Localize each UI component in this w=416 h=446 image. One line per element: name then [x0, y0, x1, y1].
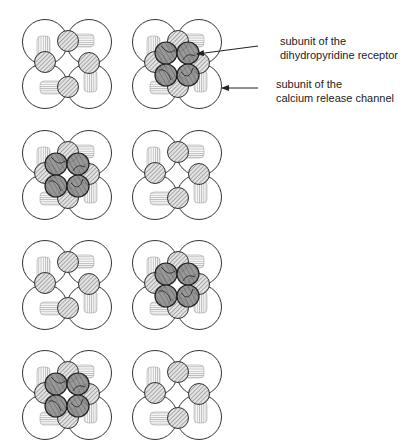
label-dhpr-line1: subunit of the: [280, 34, 398, 48]
panel-r4-c2: [133, 351, 222, 440]
panel-r3-c2: [133, 241, 222, 330]
panel-r3-c1: [23, 241, 112, 330]
label-dhpr-subunit: subunit of the dihydropyridine receptor: [280, 34, 398, 62]
label-dhpr-line2: dihydropyridine receptor: [280, 48, 398, 62]
panel-r4-c1: [23, 351, 112, 440]
panel-r2-c2: [133, 131, 222, 220]
tetrad-diagram: [0, 0, 416, 446]
label-ryr-line1: subunit of the: [276, 77, 394, 91]
label-ryr-subunit: subunit of the calcium release channel: [276, 77, 394, 105]
panel-r1-c2: [133, 20, 222, 109]
panel-r2-c1: [23, 131, 112, 220]
label-ryr-line2: calcium release channel: [276, 91, 394, 105]
panel-r1-c1: [23, 20, 112, 109]
